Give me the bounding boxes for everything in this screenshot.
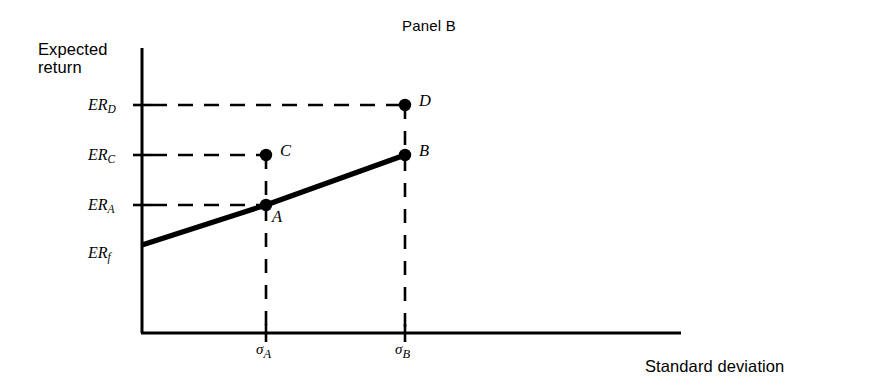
figure-panel-b: Panel B Expectedreturn Standard deviatio… xyxy=(0,0,873,390)
data-point-a xyxy=(260,199,272,211)
axes xyxy=(141,48,681,333)
guide-lines-vertical xyxy=(266,105,405,333)
data-points xyxy=(260,99,411,211)
capital-market-line xyxy=(142,155,405,245)
data-point-d xyxy=(399,99,411,111)
guide-lines-horizontal xyxy=(152,105,405,205)
data-point-b xyxy=(399,149,411,161)
data-point-c xyxy=(260,149,272,161)
plot-canvas xyxy=(0,0,873,390)
